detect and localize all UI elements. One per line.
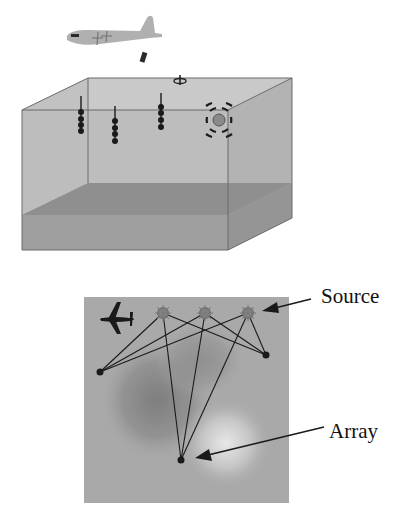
source-star-icon [240, 305, 256, 321]
receiver-dot [263, 352, 270, 359]
sonobuoy-icon [140, 52, 148, 63]
source-label: Source [321, 284, 379, 309]
source-star-icon [197, 305, 213, 321]
aircraft-icon [67, 16, 162, 45]
seafloor-front [22, 215, 228, 250]
ocean-box [22, 78, 292, 250]
source-star-icon [155, 305, 171, 321]
receiver-dot [178, 457, 185, 464]
array-label: Array [329, 419, 378, 444]
receiver-dot [97, 369, 104, 376]
